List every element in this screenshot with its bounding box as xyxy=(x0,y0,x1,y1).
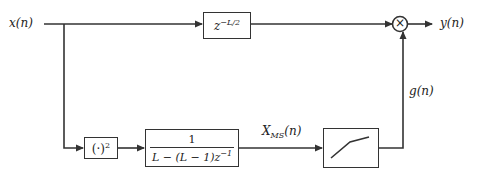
nonlinearity-block xyxy=(323,128,379,168)
delay-block: z−L/2 xyxy=(203,12,251,39)
gain-curve-icon xyxy=(323,128,379,168)
gain-label: g(n) xyxy=(409,84,434,98)
averager-block: 1 L − (L − 1)z−1 xyxy=(145,129,239,167)
averager-transfer-function: 1 L − (L − 1)z−1 xyxy=(150,133,234,164)
output-label: y(n) xyxy=(440,16,464,30)
square-label: (·)2 xyxy=(92,141,110,156)
gain-to-multiplier-line xyxy=(378,32,403,148)
input-label: x(n) xyxy=(9,16,33,30)
multiplier-symbol: × xyxy=(395,16,405,30)
branch-to-square-line xyxy=(64,24,83,148)
mean-square-label: XMS(n) xyxy=(262,124,301,140)
square-block: (·)2 xyxy=(84,137,118,159)
delay-label: z−L/2 xyxy=(214,18,240,33)
